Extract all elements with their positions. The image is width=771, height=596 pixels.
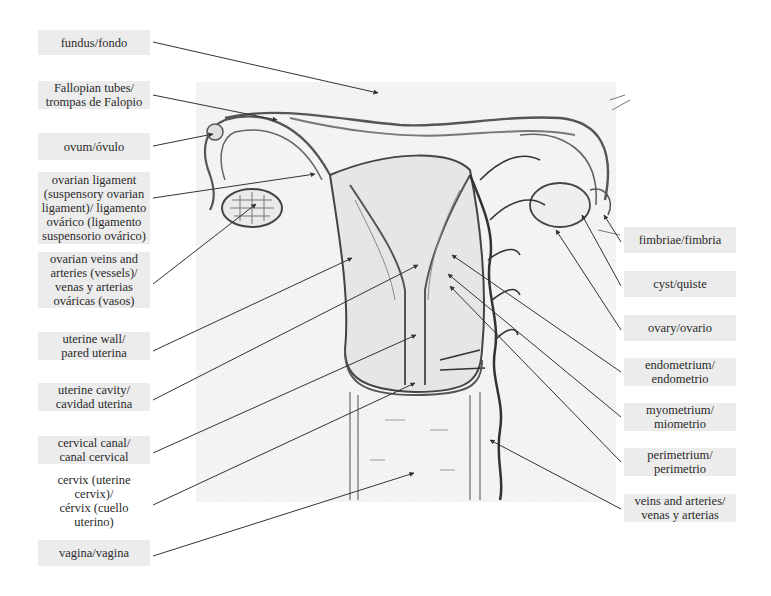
label-ovum: ovum/óvulo: [38, 133, 150, 160]
right-ovary-shape: [530, 183, 590, 227]
ovum-shape: [207, 124, 223, 140]
label-veins-arteries: veins and arteries/ venas y arterias: [624, 494, 736, 522]
label-ovarian-ligament: ovarian ligament (suspensory ovarian lig…: [38, 172, 150, 244]
label-cervical-canal: cervical canal/ canal cervical: [38, 436, 150, 464]
label-cyst: cyst/quiste: [624, 271, 736, 297]
label-fundus: fundus/fondo: [38, 30, 150, 55]
label-myometrium: myometrium/ miometrio: [624, 403, 736, 431]
label-ovary: ovary/ovario: [624, 315, 736, 341]
label-ovarian-vessels: ovarian veins and arteries (vessels)/ ve…: [38, 252, 150, 308]
label-uterine-cavity: uterine cavity/ cavidad uterina: [38, 383, 150, 411]
label-perimetrium: perimetrium/ perimetrio: [624, 448, 736, 476]
label-fallopian-tubes: Fallopian tubes/ trompas de Falopio: [38, 81, 150, 109]
label-fimbriae: fimbriae/fimbria: [624, 227, 736, 253]
label-vagina: vagina/vagina: [38, 540, 150, 566]
label-endometrium: endometrium/ endometrio: [624, 358, 736, 386]
label-cervix: cervix (uterine cervix)/ cérvix (cuello …: [36, 486, 152, 516]
label-uterine-wall: uterine wall/ pared uterina: [38, 332, 150, 360]
